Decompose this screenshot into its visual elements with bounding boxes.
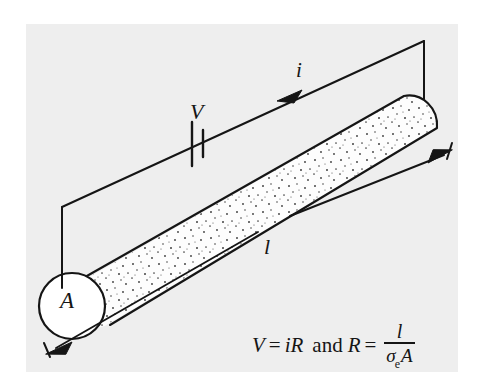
length-label: l [264, 236, 270, 258]
current-label: i [296, 60, 302, 81]
equation-iR: iR [285, 333, 304, 358]
equation-R: R [348, 333, 361, 358]
denominator-area: A [401, 345, 413, 366]
fraction-numerator: l [390, 321, 410, 342]
equation-V: V [252, 333, 265, 358]
equation: V = iR and R = l σeA [252, 322, 415, 369]
area-label: A [60, 289, 74, 312]
voltage-label: V [190, 101, 203, 123]
equation-fraction: l σeA [384, 321, 414, 368]
fraction-denominator: σeA [384, 344, 414, 369]
sigma-subscript: e [395, 357, 400, 371]
equation-equals-1: = [269, 333, 281, 358]
current-arrow-icon [277, 90, 302, 103]
equation-equals-2: = [365, 333, 377, 358]
equation-and: and [312, 333, 342, 358]
figure-page: i V l A V = iR and R = l σeA [0, 0, 481, 391]
specimen-cylinder [39, 95, 442, 339]
